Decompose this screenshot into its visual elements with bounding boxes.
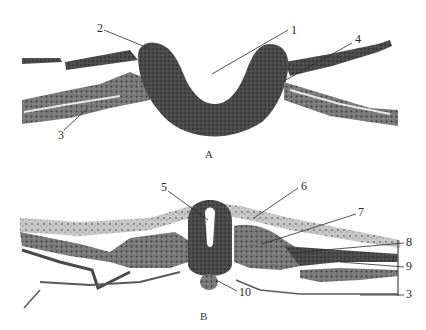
panel-a-neural-groove [22,40,398,136]
endoderm-line [236,280,398,294]
left-ectoderm-strand [22,58,62,64]
leader-line-10 [216,280,237,291]
leader-line-6 [254,188,298,218]
callout-8: 8 [406,236,412,248]
left-mesoderm [20,232,188,268]
panel-b-neural-tube [20,200,400,308]
callout-9: 9 [406,260,412,272]
callout-1: 1 [291,24,297,36]
left-lower-layer [22,72,150,124]
leader-line-2 [104,30,148,48]
panel-letter-b: B [200,310,207,322]
callout-3-a: 3 [58,129,64,141]
leader-line-9 [340,262,404,267]
panel-letter-a: A [205,148,213,160]
embryo-section-figure: 1 2 3 4 A 5 6 7 8 9 10 3 B [0,0,426,330]
callout-7: 7 [358,206,364,218]
callout-4: 4 [355,33,361,45]
notochord [200,274,218,290]
right-ectoderm-strand [285,40,392,76]
callout-6: 6 [301,180,307,192]
callout-2: 2 [97,22,103,34]
callout-10: 10 [239,286,251,298]
lateral-mesoderm [284,246,398,266]
callout-3-b: 3 [406,288,412,300]
callout-5: 5 [161,181,167,193]
neural-plate [138,43,288,137]
